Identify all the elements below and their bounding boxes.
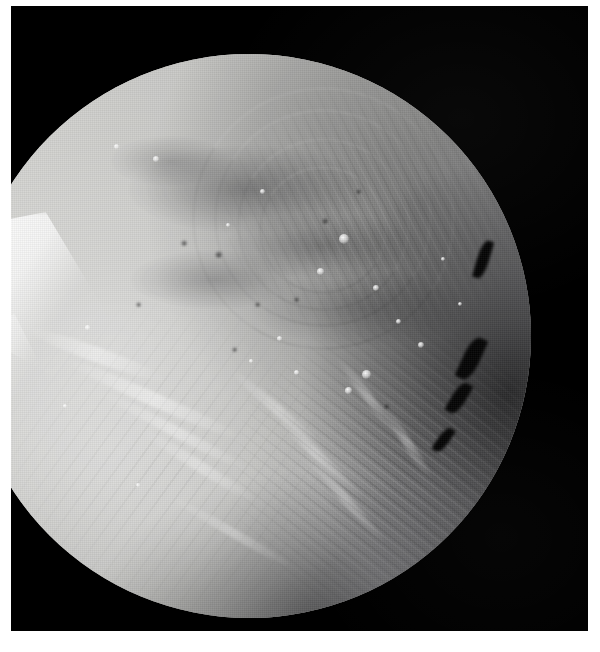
moon-disk <box>11 54 531 618</box>
terminator-shadow-notch <box>431 425 456 455</box>
image-page <box>0 0 600 652</box>
terminator-shadow-group <box>11 54 531 618</box>
terminator-shadow-notch <box>444 380 473 416</box>
moon-container <box>11 6 588 631</box>
terminator-shadow-notch <box>455 335 489 383</box>
terminator-shadow-notch <box>472 239 495 280</box>
space-background <box>11 6 588 631</box>
